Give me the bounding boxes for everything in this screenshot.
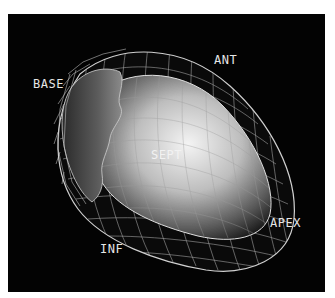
label-apex: APEX	[270, 217, 301, 229]
label-base: BASE	[33, 78, 64, 90]
heart-model-viewport: BASE ANT SEPT APEX INF	[8, 14, 325, 292]
label-ant: ANT	[214, 54, 237, 66]
label-sept: SEPT	[151, 149, 182, 161]
label-inf: INF	[100, 243, 123, 255]
